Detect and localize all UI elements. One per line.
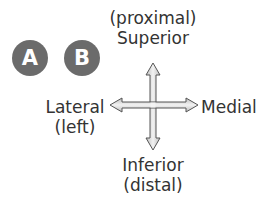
- direction-arrows-icon: [0, 0, 270, 214]
